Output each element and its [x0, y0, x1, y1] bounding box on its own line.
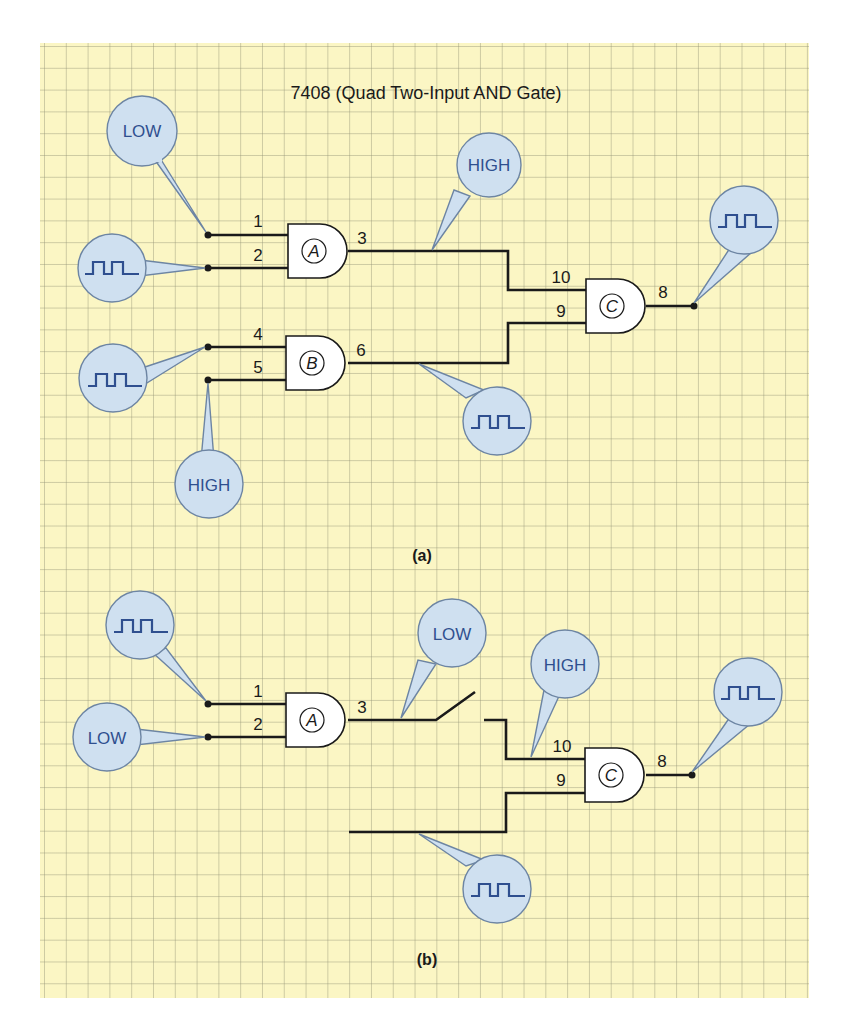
and-gate-c: C: [585, 748, 644, 802]
pin-label: 1: [253, 682, 262, 701]
pin-label: 2: [253, 246, 262, 265]
probe-reading: LOW: [123, 122, 162, 141]
pin-label: 9: [556, 302, 565, 321]
probe-reading: HIGH: [544, 656, 587, 675]
node-pin4: [205, 344, 212, 351]
gate-label: C: [606, 297, 619, 316]
probe-bubble: LOW: [107, 96, 206, 232]
node-pin1: [205, 701, 212, 708]
node-pin8: [691, 303, 698, 310]
wire-pin6-to-pin9: [348, 323, 586, 363]
probe-bubble: [419, 364, 531, 455]
node-pin1: [205, 232, 212, 239]
probe-bubble: [694, 186, 778, 303]
wire-pin3-to-pin10: [348, 251, 586, 290]
caption-a: (a): [412, 547, 432, 564]
pin-label: 10: [552, 268, 571, 287]
diagram-a: A 1 2 3 B 4 5 6 C 10 9 8 LOW: [78, 96, 778, 564]
node-pin2: [205, 734, 212, 741]
gate-label: C: [605, 766, 618, 785]
figure-title: 7408 (Quad Two-Input AND Gate): [291, 83, 562, 103]
gate-label: A: [307, 242, 319, 261]
pin-label: 3: [357, 229, 366, 248]
node-pin8: [689, 772, 696, 779]
and-gate-b: B: [286, 336, 345, 390]
diagram-b: A 1 2 3 C 10 9 8 LOW LOW: [73, 591, 782, 968]
probe-reading: LOW: [433, 625, 472, 644]
probe-bubble: HIGH: [175, 383, 243, 518]
pin-label: 5: [253, 358, 262, 377]
probe-reading: HIGH: [188, 476, 231, 495]
probe-reading: HIGH: [468, 156, 511, 175]
pin-label: 8: [658, 283, 667, 302]
probe-bubble: LOW: [401, 599, 486, 718]
caption-b: (b): [417, 951, 437, 968]
pin-label: 4: [253, 325, 262, 344]
pin-label: 6: [356, 341, 365, 360]
and-gate-a: A: [286, 693, 345, 747]
probe-bubble: [692, 658, 782, 772]
pin-label: 1: [253, 212, 262, 231]
pin-label: 2: [253, 715, 262, 734]
and-gate-c: C: [586, 279, 645, 333]
pin-label: 10: [553, 737, 572, 756]
node-pin5: [205, 377, 212, 384]
gate-label: B: [306, 354, 317, 373]
probe-reading: LOW: [88, 729, 127, 748]
probe-bubble: [78, 234, 205, 302]
pin-label: 3: [357, 698, 366, 717]
logic-diagram: 7408 (Quad Two-Input AND Gate) A 1 2 3 B: [0, 0, 848, 1027]
probe-bubble: [106, 591, 206, 701]
probe-bubble: HIGH: [432, 133, 521, 250]
probe-bubble: [419, 834, 531, 923]
and-gate-a: A: [288, 224, 347, 278]
wire-pin9: [349, 793, 585, 832]
gate-label: A: [305, 711, 317, 730]
pin-label: 9: [556, 771, 565, 790]
node-pin2: [205, 265, 212, 272]
pin-label: 8: [657, 752, 666, 771]
probe-bubble: LOW: [73, 703, 205, 771]
probe-bubble: [79, 344, 205, 412]
